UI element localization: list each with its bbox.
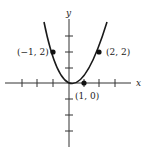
point-2-2 <box>96 49 101 54</box>
point-label-1-0: (1, 0) <box>75 92 99 101</box>
point-label-2-2: (2, 2) <box>106 48 130 57</box>
point-1-0 <box>81 80 86 85</box>
graph-canvas <box>0 0 144 152</box>
point-neg1-2 <box>50 49 55 54</box>
y-axis-label: y <box>66 9 71 18</box>
x-axis-label: x <box>136 79 141 88</box>
point-label-neg1-2: (−1, 2) <box>17 48 49 57</box>
